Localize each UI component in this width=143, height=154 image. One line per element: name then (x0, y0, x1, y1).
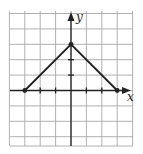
point-marker (115, 88, 120, 93)
x-axis-label: x (127, 90, 134, 104)
coordinate-plane: x y (0, 0, 143, 154)
point-marker (69, 42, 74, 47)
y-axis-label: y (75, 10, 83, 24)
point-marker (22, 88, 27, 93)
axes (10, 12, 131, 146)
